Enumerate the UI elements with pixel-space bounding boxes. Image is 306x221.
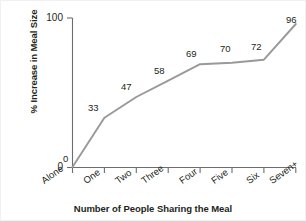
y-tick-marks (67, 18, 73, 168)
chart-figure: % Increase in Meal Size 100 0 Alone One (0, 0, 306, 221)
point-label-sevenplus: 96 (286, 14, 297, 25)
y-tick-label-100: 100 (33, 12, 63, 23)
point-label-alone: 0 (63, 153, 68, 164)
point-label-one: 33 (88, 102, 99, 113)
x-axis-title: Number of People Sharing the Meal (1, 203, 305, 214)
plot-area (1, 1, 306, 221)
point-label-six: 72 (251, 41, 262, 52)
point-label-three: 58 (154, 65, 165, 76)
point-label-four: 69 (186, 48, 197, 59)
point-label-two: 47 (121, 81, 132, 92)
data-line (73, 24, 296, 167)
point-label-five: 70 (220, 43, 231, 54)
